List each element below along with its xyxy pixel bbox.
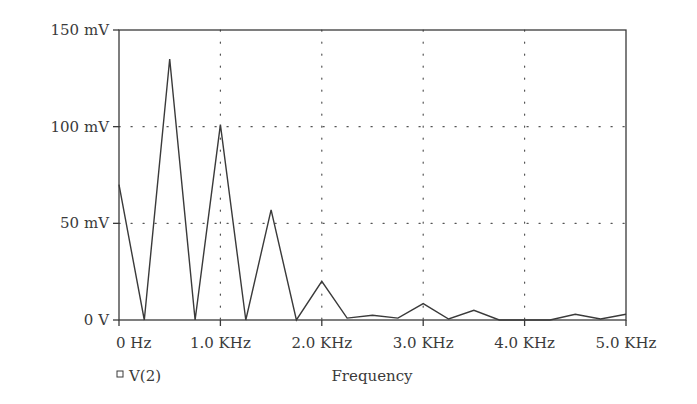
legend-label: V(2) — [128, 367, 161, 385]
y-tick-label: 0 V — [84, 311, 110, 329]
grid-lines — [119, 30, 626, 320]
x-tick-label: 0 Hz — [116, 334, 151, 352]
square-marker-icon — [117, 371, 123, 377]
x-tick-label: 5.0 KHz — [596, 334, 657, 352]
x-axis: 0 Hz1.0 KHz2.0 KHz3.0 KHz4.0 KHz5.0 KHz — [116, 320, 656, 352]
y-tick-label: 150 mV — [51, 21, 111, 39]
y-tick-label: 100 mV — [51, 118, 111, 136]
spectrum-chart: 0 V50 mV100 mV150 mV 0 Hz1.0 KHz2.0 KHz3… — [0, 0, 697, 404]
plot-frame — [119, 30, 626, 320]
legend: V(2) — [117, 367, 161, 385]
x-tick-label: 2.0 KHz — [291, 334, 352, 352]
y-axis: 0 V50 mV100 mV150 mV — [51, 21, 119, 329]
x-axis-title: Frequency — [331, 367, 413, 385]
series-line-v2 — [119, 59, 626, 320]
x-tick-label: 1.0 KHz — [190, 334, 251, 352]
x-tick-label: 4.0 KHz — [494, 334, 555, 352]
y-tick-label: 50 mV — [60, 214, 110, 232]
x-tick-label: 3.0 KHz — [393, 334, 454, 352]
